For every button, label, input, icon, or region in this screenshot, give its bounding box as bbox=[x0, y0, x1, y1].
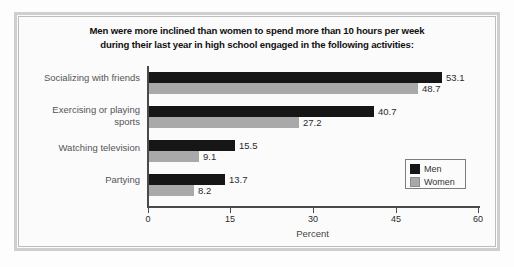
legend-swatch-men-icon bbox=[410, 164, 420, 174]
bar-women-television[interactable] bbox=[149, 151, 199, 162]
bar-women-exercising[interactable] bbox=[149, 117, 299, 128]
chart-title: Men were more inclined than women to spe… bbox=[24, 24, 490, 51]
bar-value-men-exercising: 40.7 bbox=[378, 106, 397, 117]
bar-men-partying[interactable] bbox=[149, 174, 225, 185]
x-tick-label-15: 15 bbox=[225, 214, 235, 224]
chart-title-line-2: during their last year in high school en… bbox=[24, 38, 490, 52]
bar-value-women-partying: 8.2 bbox=[198, 185, 211, 196]
category-label-socializing: Socializing with friends bbox=[10, 72, 140, 84]
bar-men-exercising[interactable] bbox=[149, 106, 374, 117]
bar-men-socializing[interactable] bbox=[149, 72, 442, 83]
legend-item-men[interactable]: Men bbox=[410, 163, 465, 175]
bar-value-women-socializing: 48.7 bbox=[422, 83, 441, 94]
bar-value-men-partying: 13.7 bbox=[229, 174, 248, 185]
x-tick-label-30: 30 bbox=[308, 214, 318, 224]
bar-women-socializing[interactable] bbox=[149, 83, 418, 94]
legend-item-women[interactable]: Women bbox=[410, 176, 465, 188]
legend-swatch-women-icon bbox=[410, 177, 420, 187]
x-tick-45 bbox=[396, 208, 397, 213]
x-tick-label-0: 0 bbox=[145, 214, 150, 224]
bar-men-television[interactable] bbox=[149, 140, 235, 151]
chart-title-line-1: Men were more inclined than women to spe… bbox=[90, 25, 425, 36]
bar-value-men-socializing: 53.1 bbox=[446, 72, 465, 83]
chart-legend: Men Women bbox=[405, 159, 466, 189]
x-axis-title: Percent bbox=[147, 228, 478, 239]
x-tick-0 bbox=[148, 208, 149, 213]
bar-value-women-exercising: 27.2 bbox=[303, 117, 322, 128]
bar-women-partying[interactable] bbox=[149, 185, 194, 196]
chart-page: Men were more inclined than women to spe… bbox=[0, 0, 514, 267]
bar-value-men-television: 15.5 bbox=[239, 140, 258, 151]
category-label-exercising: Exercising or playing sports bbox=[10, 104, 140, 127]
category-label-partying: Partying bbox=[10, 174, 140, 186]
bar-value-women-television: 9.1 bbox=[203, 151, 216, 162]
category-label-television: Watching television bbox=[10, 142, 140, 154]
x-tick-60 bbox=[478, 208, 479, 213]
x-tick-label-60: 60 bbox=[473, 214, 483, 224]
legend-label-women: Women bbox=[424, 177, 455, 187]
legend-label-men: Men bbox=[424, 164, 442, 174]
x-tick-label-45: 45 bbox=[391, 214, 401, 224]
x-tick-15 bbox=[230, 208, 231, 213]
x-tick-30 bbox=[313, 208, 314, 213]
